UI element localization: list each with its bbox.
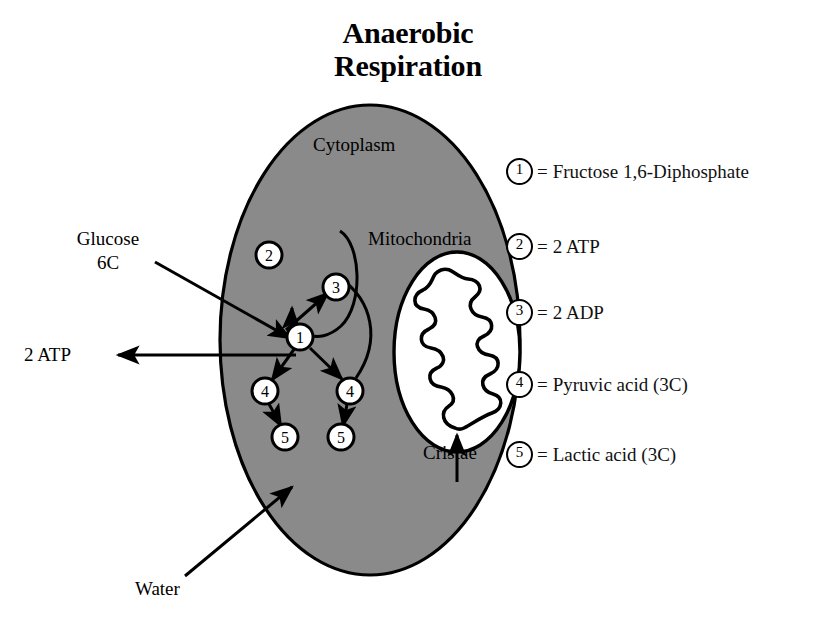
- legend-equals-1: =: [537, 161, 548, 183]
- legend-equals-2: =: [537, 236, 548, 258]
- cytoplasm-label: Cytoplasm: [313, 134, 395, 156]
- legend-item-1: 1 = Fructose 1,6-Diphosphate: [506, 158, 749, 185]
- legend-number-2: 2: [506, 233, 533, 260]
- legend-text-5: Lactic acid (3C): [553, 444, 676, 466]
- mitochondrion-outer-membrane: [394, 252, 520, 452]
- legend-number-4: 4: [506, 371, 533, 398]
- legend-equals-4: =: [537, 374, 548, 396]
- legend-equals-3: =: [537, 302, 548, 324]
- node-5-right-label: 5: [337, 429, 345, 446]
- node-5-right: 5: [328, 424, 354, 450]
- node-3-label: 3: [332, 279, 340, 296]
- diagram-page: Anaerobic Respiration: [0, 0, 816, 642]
- node-4-left: 4: [252, 378, 278, 404]
- legend-number-5: 5: [506, 441, 533, 468]
- legend-number-3: 3: [506, 299, 533, 326]
- node-3: 3: [323, 274, 349, 300]
- water-label: Water: [135, 578, 180, 600]
- legend-item-5: 5 = Lactic acid (3C): [506, 441, 676, 468]
- legend-text-1: Fructose 1,6-Diphosphate: [553, 161, 749, 183]
- node-5-left-label: 5: [281, 429, 289, 446]
- legend-number-1: 1: [506, 158, 533, 185]
- node-1-label: 1: [296, 329, 304, 346]
- mitochondria-label: Mitochondria: [368, 228, 471, 250]
- legend-equals-5: =: [537, 444, 548, 466]
- legend-text-3: 2 ADP: [553, 302, 604, 324]
- node-2: 2: [256, 242, 282, 268]
- node-4-left-label: 4: [261, 383, 269, 400]
- node-2-label: 2: [265, 247, 273, 264]
- node-4-right: 4: [337, 378, 363, 404]
- atp-output-label: 2 ATP: [24, 344, 71, 366]
- glucose-label-line-1: Glucose: [48, 228, 168, 250]
- legend-item-4: 4 = Pyruvic acid (3C): [506, 371, 688, 398]
- glucose-label-line-2: 6C: [48, 252, 168, 274]
- legend-item-3: 3 = 2 ADP: [506, 299, 604, 326]
- water-input-arrow: [185, 487, 292, 576]
- cell-diagram: 1 2 3 4 4 5 5: [0, 0, 816, 642]
- node-1: 1: [287, 324, 313, 350]
- cristae-label: Cristae: [423, 442, 477, 464]
- node-4-right-label: 4: [346, 383, 354, 400]
- node-5-left: 5: [272, 424, 298, 450]
- legend-text-4: Pyruvic acid (3C): [553, 374, 688, 396]
- legend-item-2: 2 = 2 ATP: [506, 233, 600, 260]
- legend-text-2: 2 ATP: [553, 236, 600, 258]
